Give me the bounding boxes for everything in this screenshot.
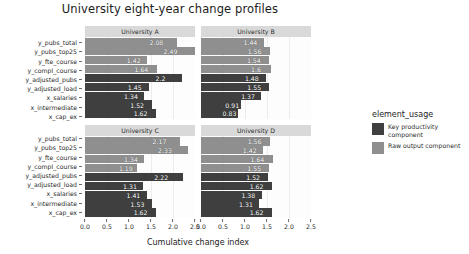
legend-swatch (372, 123, 384, 135)
bar-row: 1.34 (85, 92, 195, 100)
facet-title: University B (201, 26, 311, 37)
bar-row: 1.52 (85, 100, 195, 108)
bar-row: 1.62 (85, 109, 195, 117)
bar-value-label: 1.56 (248, 138, 262, 145)
bar-value-label: 1.37 (241, 92, 255, 99)
y-axis-tick-label: y_compl_course (0, 66, 82, 74)
bar-row: 2.33 (85, 146, 195, 154)
bar-value-label: 1.42 (127, 57, 141, 64)
x-axis-col-1: 0.00.51.01.52.02.5 (85, 219, 195, 233)
bar-value-label: 1.45 (128, 83, 142, 90)
bar-value-label: 1.31 (123, 182, 137, 189)
legend-label: Key productivity component (388, 123, 467, 139)
bar (85, 146, 188, 154)
y-axis-tick-label: y_adjusted_load (0, 85, 82, 93)
y-axis-tick-label: y_adjusted_pubs (0, 171, 82, 179)
bar-group: 1.441.561.541.61.481.551.370.910.83 (201, 37, 311, 119)
bar-value-label: 1.38 (241, 191, 255, 198)
facet-plot-area: 1.441.561.541.61.481.551.370.910.83 (201, 37, 311, 119)
bar-row: 1.31 (85, 182, 195, 190)
legend-item[interactable]: Key productivity component (372, 123, 467, 139)
bar-row: 2.22 (85, 173, 195, 181)
bar-value-label: 1.48 (245, 74, 259, 81)
bar-row: 1.44 (201, 38, 311, 46)
y-axis-tick-label: y_adjusted_pubs (0, 75, 82, 83)
bar-value-label: 1.62 (250, 182, 264, 189)
bar-value-label: 1.62 (134, 110, 148, 117)
bar-row: 1.19 (85, 164, 195, 172)
bar-row: 1.64 (201, 155, 311, 163)
y-axis-tick-label: y_pubs_total (0, 135, 82, 143)
bar-value-label: 0.91 (225, 101, 239, 108)
bar-row: 2.17 (85, 137, 195, 145)
bar-row: 1.48 (201, 74, 311, 82)
bar-row: 1.62 (201, 208, 311, 216)
bar-value-label: 2.22 (154, 173, 168, 180)
facet-title: University C (85, 125, 195, 136)
bar-row: 1.6 (201, 65, 311, 73)
bar-value-label: 1.31 (239, 200, 253, 207)
bar-value-label: 1.64 (250, 156, 264, 163)
x-axis-tick: 0.5 (218, 219, 228, 230)
facet-3: University C2.172.331.341.192.221.311.41… (85, 125, 195, 218)
bar-value-label: 1.54 (247, 57, 261, 64)
y-axis-tick-label: y_fte_course (0, 57, 82, 65)
x-axis-col-2: 0.00.51.01.52.02.5 (201, 219, 311, 233)
bar-row: 0.83 (201, 109, 311, 117)
bar-row: 1.54 (201, 56, 311, 64)
bar-group: 2.082.491.421.642.21.451.341.521.62 (85, 37, 195, 119)
bar-value-label: 1.52 (130, 101, 144, 108)
bar-value-label: 1.64 (134, 66, 148, 73)
facet-plot-area: 2.172.331.341.192.221.311.411.531.62 (85, 136, 195, 218)
y-axis-tick-label: x_salaries (0, 190, 82, 198)
chart-root: University eight-year change profiles Un… (0, 0, 469, 254)
bar-value-label: 1.34 (124, 156, 138, 163)
facet-title: University D (201, 125, 311, 136)
y-axis-tick-label: y_pubs_total (0, 39, 82, 47)
bar-row: 1.38 (201, 191, 311, 199)
x-axis-tick: 0.0 (80, 219, 90, 230)
x-axis-title: Cumulative change index (85, 238, 311, 247)
bar-value-label: 1.55 (247, 165, 261, 172)
x-axis-tick: 2.0 (284, 219, 294, 230)
bar-value-label: 1.34 (124, 92, 138, 99)
bar-value-label: 1.42 (243, 147, 257, 154)
bar-row: 1.42 (85, 56, 195, 64)
facet-plot-area: 1.561.421.641.551.521.621.381.311.62 (201, 136, 311, 218)
bar-value-label: 2.49 (164, 48, 178, 55)
bar-row: 1.31 (201, 199, 311, 207)
bar-group: 1.561.421.641.551.521.621.381.311.62 (201, 136, 311, 218)
x-axis-tick: 1.0 (124, 219, 134, 230)
facet-4: University D1.561.421.641.551.521.621.38… (201, 125, 311, 218)
bar-group: 2.172.331.341.192.221.311.411.531.62 (85, 136, 195, 218)
bar-value-label: 1.56 (248, 48, 262, 55)
x-axis-tick: 2.0 (168, 219, 178, 230)
y-axis-tick-label: y_compl_course (0, 162, 82, 170)
y-axis-tick-label: y_fte_course (0, 153, 82, 161)
facet-2: University B1.441.561.541.61.481.551.370… (201, 26, 311, 119)
bar-value-label: 2.2 (156, 74, 166, 81)
bar-row: 1.52 (201, 173, 311, 181)
bar-value-label: 2.08 (149, 39, 163, 46)
bar-row: 1.45 (85, 83, 195, 91)
legend-item[interactable]: Raw output component (372, 142, 467, 154)
facet-plot-area: 2.082.491.421.642.21.451.341.521.62 (85, 37, 195, 119)
y-axis-tick-label: x_intermediate (0, 199, 82, 207)
bar-row: 1.56 (201, 47, 311, 55)
y-axis-labels-row-1: y_pubs_totaly_pubs_top25y_fte_coursey_co… (0, 37, 82, 122)
bar-row: 1.64 (85, 65, 195, 73)
bar-row: 1.34 (85, 155, 195, 163)
y-axis-tick-label: x_cap_ex (0, 208, 82, 216)
bar-row: 1.41 (85, 191, 195, 199)
bar-row: 2.2 (85, 74, 195, 82)
bar-row: 1.37 (201, 92, 311, 100)
bar-row: 2.49 (85, 47, 195, 55)
x-axis-tick: 0.0 (196, 219, 206, 230)
bar-value-label: 1.53 (131, 200, 145, 207)
bar-row: 1.55 (201, 164, 311, 172)
x-axis-tick: 1.5 (262, 219, 272, 230)
bar-value-label: 0.83 (223, 110, 237, 117)
legend-title: element_usage (372, 110, 467, 119)
bar-row: 1.62 (85, 208, 195, 216)
bar-value-label: 1.6 (251, 66, 261, 73)
